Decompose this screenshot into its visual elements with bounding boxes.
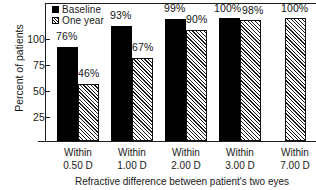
bar-one-year-0 (78, 84, 99, 141)
x-tick-label-1: Within 1.00 D (104, 147, 160, 172)
bar-baseline-1 (111, 26, 132, 141)
x-tick-label-3-line2: 3.00 D (212, 160, 268, 173)
bar-value-baseline-3: 100% (214, 3, 241, 14)
x-axis-title: Refractive difference between patient's … (45, 176, 316, 190)
x-tick-label-1-line2: 1.00 D (104, 160, 160, 173)
bar-value-baseline-2: 99% (164, 3, 185, 14)
bar-value-one-year-0: 46% (78, 68, 99, 79)
bar-baseline-0 (57, 47, 78, 141)
x-tick-label-2: Within 2.00 D (158, 147, 214, 172)
bar-one-year-4 (285, 18, 306, 142)
bar-one-year-1 (132, 58, 153, 141)
x-tick-label-0-line1: Within (64, 147, 92, 158)
x-tick-label-0-line2: 0.50 D (50, 160, 106, 173)
bar-value-one-year-1: 67% (132, 42, 153, 53)
x-tick-label-4-line2: 7.00 D (267, 160, 316, 173)
x-tick-label-3-line1: Within (226, 147, 254, 158)
bar-baseline-3 (219, 18, 240, 142)
x-tick-label-3: Within 3.00 D (212, 147, 268, 172)
x-tick-label-4: Within 7.00 D (267, 147, 316, 172)
x-tick-label-0: Within 0.50 D (50, 147, 106, 172)
bar-value-one-year-4: 100% (281, 3, 308, 14)
x-tick-label-2-line2: 2.00 D (158, 160, 214, 173)
bar-one-year-2 (186, 30, 207, 142)
bar-value-baseline-1: 93% (110, 10, 131, 21)
x-tick-label-4-line1: Within (281, 147, 309, 158)
bar-value-baseline-0: 76% (56, 31, 77, 42)
bar-value-one-year-3: 98% (242, 5, 263, 16)
bar-one-year-3 (240, 20, 261, 142)
x-tick-label-2-line1: Within (172, 147, 200, 158)
x-tick-label-1-line1: Within (118, 147, 146, 158)
chart-screenshot: 100 75 50 25 Percent of patients Baselin… (0, 0, 316, 190)
bar-baseline-2 (165, 19, 186, 142)
bar-value-one-year-2: 90% (186, 14, 207, 25)
